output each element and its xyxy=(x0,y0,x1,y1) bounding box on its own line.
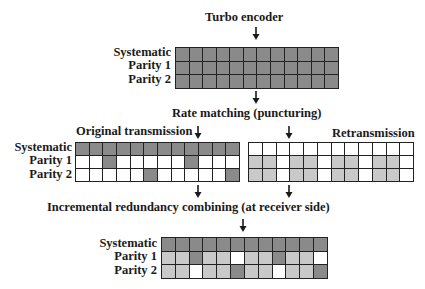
combined-row-labels: Systematic Parity 1 Parity 2 xyxy=(99,237,157,277)
bit-cell: D xyxy=(176,75,189,88)
down-arrow-icon xyxy=(251,27,261,40)
bit-cell: L xyxy=(259,265,272,278)
bit-cell: D xyxy=(312,62,325,75)
bit-cell: D xyxy=(190,62,203,75)
original-row-labels: Systematic Parity 1 Parity 2 xyxy=(14,141,72,181)
bit-cell: W xyxy=(172,169,185,181)
bit-cell: D xyxy=(271,75,284,88)
bit-cell: D xyxy=(131,143,144,155)
bit-cell: D xyxy=(230,62,243,75)
row-label-parity-1: Parity 1 xyxy=(14,154,72,167)
row-label-parity-2: Parity 2 xyxy=(14,168,72,181)
original-transmission-label: Original transmission xyxy=(76,124,192,138)
rate-matching-label: Rate matching (puncturing) xyxy=(172,106,321,120)
bit-cell: W xyxy=(277,169,290,181)
bit-cell: W xyxy=(131,156,144,168)
bit-cell: L xyxy=(387,169,400,181)
bit-cell: W xyxy=(304,143,317,155)
bit-cell: D xyxy=(203,75,216,88)
combined-grid: DDDDDDDDDDDDLLDLLWLLDLLWLLWLLDLLWLLD xyxy=(161,237,328,279)
bit-cell: D xyxy=(217,238,230,251)
bit-cell: L xyxy=(373,156,386,168)
bit-cell: D xyxy=(244,48,257,61)
bit-cell: D xyxy=(325,75,338,88)
bit-cell: L xyxy=(263,156,276,168)
bit-cell: W xyxy=(314,252,327,265)
bit-cell: D xyxy=(203,238,216,251)
bit-cell: W xyxy=(199,169,212,181)
down-arrow-icon xyxy=(193,126,203,139)
bit-cell: L xyxy=(176,252,189,265)
bit-cell: D xyxy=(285,48,298,61)
bit-cell: D xyxy=(117,143,130,155)
retransmission-label: Retransmission xyxy=(332,126,415,140)
encoder-grid: DDDDDDDDDDDDDDDDDDDDDDDDDDDDDDDDDDDD xyxy=(175,47,339,89)
bit-cell: D xyxy=(76,143,89,155)
row-label-parity-1: Parity 1 xyxy=(99,250,157,263)
bit-cell: D xyxy=(314,265,327,278)
bit-cell: D xyxy=(325,62,338,75)
encoder-row-labels: Systematic Parity 1 Parity 2 xyxy=(113,46,171,86)
bit-cell: W xyxy=(373,143,386,155)
bit-cell: W xyxy=(400,143,413,155)
turbo-encoder-title: Turbo encoder xyxy=(205,10,283,24)
bit-cell: W xyxy=(318,156,331,168)
bit-cell: W xyxy=(318,169,331,181)
bit-cell: D xyxy=(103,156,116,168)
bit-cell: D xyxy=(217,48,230,61)
bit-cell: D xyxy=(230,75,243,88)
bit-cell: W xyxy=(387,143,400,155)
bit-cell: W xyxy=(277,143,290,155)
bit-cell: D xyxy=(203,48,216,61)
bit-cell: W xyxy=(332,143,345,155)
bit-cell: D xyxy=(162,238,175,251)
bit-cell: D xyxy=(298,48,311,61)
bit-cell: D xyxy=(190,48,203,61)
bit-cell: D xyxy=(298,62,311,75)
bit-cell: W xyxy=(318,143,331,155)
bit-cell: W xyxy=(231,252,244,265)
bit-cell: L xyxy=(300,252,313,265)
bit-cell: D xyxy=(312,75,325,88)
bit-cell: W xyxy=(213,156,226,168)
row-label-systematic: Systematic xyxy=(113,46,171,59)
bit-cell: W xyxy=(277,156,290,168)
bit-cell: D xyxy=(144,169,157,181)
original-transmission-grid: DDDDDDDDDDDDWWDWWWWWDWWWWWWWWDWWWWWD xyxy=(75,142,240,182)
bit-cell: D xyxy=(90,143,103,155)
retransmission-grid: WWWWWWWWWWWWLLWLLWLLWLLWLLWLLWLLWLLW xyxy=(248,142,414,182)
bit-cell: L xyxy=(290,169,303,181)
bit-cell: D xyxy=(176,62,189,75)
bit-cell: L xyxy=(387,156,400,168)
bit-cell: W xyxy=(90,156,103,168)
bit-cell: W xyxy=(290,143,303,155)
bit-cell: W xyxy=(199,156,212,168)
bit-cell: W xyxy=(158,156,171,168)
down-arrow-icon xyxy=(193,185,203,198)
bit-cell: L xyxy=(290,156,303,168)
bit-cell: W xyxy=(226,156,239,168)
down-arrow-icon xyxy=(238,219,248,232)
bit-cell: D xyxy=(231,265,244,278)
bit-cell: D xyxy=(230,48,243,61)
bit-cell: D xyxy=(185,156,198,168)
bit-cell: W xyxy=(400,169,413,181)
bit-cell: L xyxy=(217,252,230,265)
bit-cell: D xyxy=(244,62,257,75)
bit-cell: W xyxy=(359,169,372,181)
bit-cell: L xyxy=(373,169,386,181)
bit-cell: D xyxy=(203,62,216,75)
bit-cell: D xyxy=(271,62,284,75)
bit-cell: W xyxy=(359,156,372,168)
bit-cell: W xyxy=(273,265,286,278)
bit-cell: W xyxy=(158,169,171,181)
bit-cell: L xyxy=(162,252,175,265)
ir-combining-label: Incremental redundancy combining (at rec… xyxy=(47,200,330,214)
bit-cell: D xyxy=(298,75,311,88)
bit-cell: D xyxy=(226,169,239,181)
bit-cell: D xyxy=(190,75,203,88)
row-label-systematic: Systematic xyxy=(99,237,157,250)
bit-cell: L xyxy=(304,169,317,181)
bit-cell: L xyxy=(245,265,258,278)
bit-cell: L xyxy=(263,169,276,181)
